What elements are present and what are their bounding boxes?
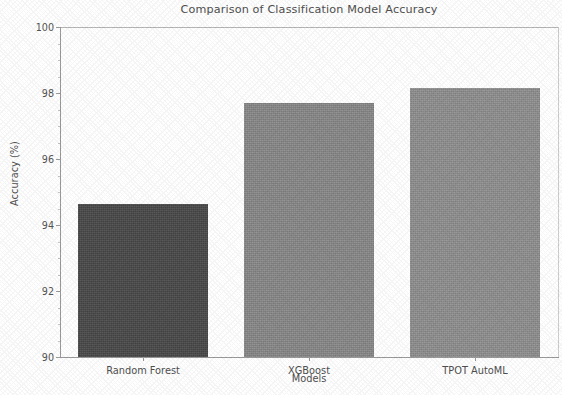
y-tick-minor bbox=[58, 258, 60, 259]
bar-texture bbox=[244, 103, 373, 357]
y-axis-label: Accuracy (%) bbox=[9, 114, 20, 234]
x-tick-mark bbox=[309, 357, 310, 361]
x-axis-label: Models bbox=[60, 373, 558, 384]
y-tick-label: 98 bbox=[42, 88, 54, 99]
y-tick-minor bbox=[58, 77, 60, 78]
y-tick-minor bbox=[58, 176, 60, 177]
y-tick-minor bbox=[58, 192, 60, 193]
y-tick-label: 96 bbox=[42, 154, 54, 165]
x-tick-mark bbox=[143, 357, 144, 361]
chart-title: Comparison of Classification Model Accur… bbox=[60, 3, 558, 16]
axis-spine-right bbox=[558, 27, 559, 358]
y-tick-mark bbox=[56, 27, 60, 28]
y-tick-label: 100 bbox=[36, 22, 54, 33]
y-tick-mark bbox=[56, 357, 60, 358]
y-tick-minor bbox=[58, 44, 60, 45]
bar-texture bbox=[410, 88, 539, 357]
y-tick-minor bbox=[58, 126, 60, 127]
bar bbox=[78, 204, 207, 357]
y-tick-minor bbox=[58, 110, 60, 111]
x-tick-mark bbox=[475, 357, 476, 361]
y-tick-minor bbox=[58, 60, 60, 61]
y-tick-minor bbox=[58, 324, 60, 325]
plot-area: 9092949698100 Random ForestXGBoostTPOT A… bbox=[60, 27, 558, 357]
y-tick-label: 90 bbox=[42, 352, 54, 363]
axis-spine-top bbox=[60, 27, 559, 28]
bar bbox=[410, 88, 539, 357]
bar-texture bbox=[78, 204, 207, 357]
chart-figure: Comparison of Classification Model Accur… bbox=[0, 0, 562, 395]
y-tick-minor bbox=[58, 242, 60, 243]
y-tick-label: 92 bbox=[42, 286, 54, 297]
y-tick-label: 94 bbox=[42, 220, 54, 231]
axis-spine-left bbox=[60, 27, 61, 358]
y-tick-mark bbox=[56, 225, 60, 226]
y-tick-mark bbox=[56, 159, 60, 160]
bar bbox=[244, 103, 373, 357]
y-tick-minor bbox=[58, 308, 60, 309]
y-tick-mark bbox=[56, 93, 60, 94]
y-tick-minor bbox=[58, 275, 60, 276]
y-tick-mark bbox=[56, 291, 60, 292]
y-tick-minor bbox=[58, 341, 60, 342]
y-tick-minor bbox=[58, 209, 60, 210]
y-tick-minor bbox=[58, 143, 60, 144]
